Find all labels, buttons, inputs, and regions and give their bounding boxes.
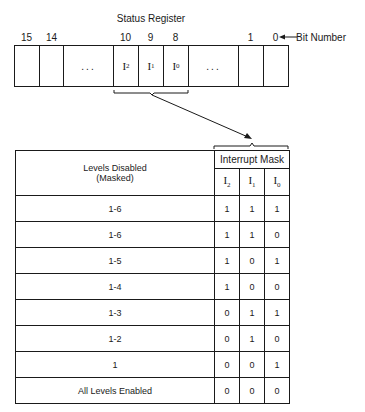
interrupt-mask-header: Interrupt Mask — [215, 151, 290, 169]
register-cell-i0: I0 — [164, 46, 189, 86]
register-cell-ellipsis-2: ... — [189, 46, 239, 86]
register-cell-14 — [40, 46, 64, 86]
register-cell-i1: I1 — [139, 46, 164, 86]
table-row: 1-5 1 0 1 — [16, 248, 290, 274]
register-cell-0 — [264, 46, 288, 86]
register-cell-15 — [15, 46, 40, 86]
arrow-left-icon — [279, 35, 285, 40]
table-row: All Levels Enabled 0 0 0 — [16, 378, 290, 404]
table-row: 1-4 1 0 0 — [16, 274, 290, 300]
mask-col-i0: I0 — [265, 169, 290, 196]
interrupt-mask-table: Levels Disabled (Masked) Interrupt Mask … — [15, 150, 290, 404]
bit-number-label: Bit Number — [296, 32, 346, 43]
table-row: 1-3 0 1 1 — [16, 300, 290, 326]
mask-col-i2: I2 — [215, 169, 240, 196]
table-row: 1-6 1 1 1 — [16, 196, 290, 222]
status-register: ... I2 I1 I0 ... — [14, 45, 289, 87]
levels-header: Levels Disabled (Masked) — [16, 151, 215, 196]
register-cell-i2: I2 — [114, 46, 139, 86]
register-cell-1 — [239, 46, 264, 86]
register-cell-ellipsis: ... — [64, 46, 114, 86]
table-row: 1-6 1 1 0 — [16, 222, 290, 248]
mask-col-i1: I1 — [240, 169, 265, 196]
table-row: 1-2 0 1 0 — [16, 326, 290, 352]
table-row: 1 0 0 1 — [16, 352, 290, 378]
